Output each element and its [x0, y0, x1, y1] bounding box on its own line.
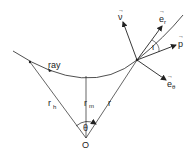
e-r-sub: r — [164, 19, 166, 25]
nu-vector — [123, 22, 137, 60]
ray-curve — [13, 15, 183, 78]
e-r-arrow: → — [159, 8, 165, 14]
ray-label: ray — [48, 60, 61, 70]
theta-label: θ — [83, 123, 88, 133]
e-theta-sub: θ — [172, 84, 176, 90]
r-h-label: r — [48, 98, 51, 108]
e-theta-arrow: → — [167, 73, 173, 79]
e-theta-vector — [137, 60, 166, 80]
r-label: r — [108, 98, 111, 108]
r-line — [86, 60, 137, 138]
r-m-sub: m — [89, 103, 94, 109]
r-m-label: r — [84, 98, 87, 108]
nu-label: ν — [118, 12, 123, 22]
ray-geometry-diagram: ray r h r m r θ O ν → e r → p → e θ → ι — [0, 0, 195, 158]
iota-label: ι — [152, 42, 154, 52]
nu-arrow: → — [118, 7, 124, 13]
p-arrow: → — [178, 33, 184, 39]
p-label: p — [178, 39, 183, 49]
r-h-sub: h — [53, 104, 56, 110]
origin-label: O — [82, 140, 89, 150]
